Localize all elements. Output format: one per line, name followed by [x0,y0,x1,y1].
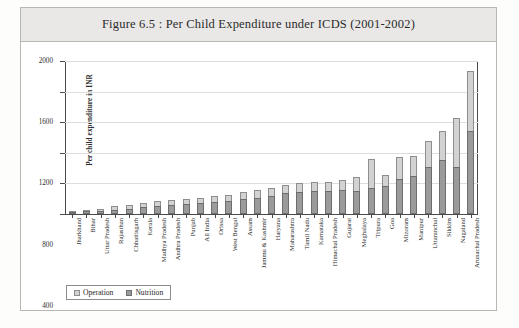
bar-stack[interactable] [368,159,375,214]
bar-stack[interactable] [154,201,161,214]
y-axis-tick-label: 400 [42,302,53,310]
legend-item-operation[interactable]: Operation [74,288,113,297]
bar-stack[interactable] [126,205,133,214]
bar-segment-nutrition [396,179,403,214]
bar-stack[interactable] [140,203,147,214]
bar-stack[interactable] [240,192,247,214]
bar-stack[interactable] [296,183,303,214]
x-axis-label: West Bengal [231,218,238,251]
bar-segment-nutrition [154,206,161,214]
bar-stack[interactable] [325,182,332,215]
y-axis-tick-label: 2000 [39,57,53,65]
bar-stack[interactable] [311,182,318,214]
x-axis-label: Tripura [374,218,381,238]
x-axis-label: Andhra Pradesh [174,218,181,260]
bar-segment-nutrition [353,191,360,214]
x-axis-label: Arunachal Pradesh [473,218,480,268]
bar-segment-operation [353,177,360,191]
bar-segment-nutrition [83,211,90,214]
x-axis-label: Gujarat [345,218,352,238]
bar-stack[interactable] [69,211,76,214]
bar-segment-operation [425,141,432,167]
bar-segment-operation [368,159,375,188]
x-axis-label: All India [203,218,210,242]
bar-stack[interactable] [453,118,460,214]
y-axis-tick-label: 1600 [39,118,53,126]
x-axis-label: Mizoram [402,218,409,242]
bar-segment-nutrition [126,209,133,214]
bar-segment-nutrition [311,191,318,214]
bar-segment-operation [382,175,389,186]
bar-segment-operation [325,182,332,192]
x-axis-label: Chhattisgarh [132,218,139,252]
y-axis-tick: 0 [60,214,65,215]
bar-segment-nutrition [140,207,147,214]
bar-stack[interactable] [97,209,104,214]
bar-stack[interactable] [425,141,432,214]
bar-segment-nutrition [240,199,247,214]
bar-segment-nutrition [168,205,175,214]
bar-stack[interactable] [183,199,190,214]
x-axis-label: Jharkhand [75,218,82,245]
x-axis-label: Rajasthan [117,218,124,244]
bar-segment-operation [453,118,460,167]
bar-segment-nutrition [425,167,432,214]
bar-segment-nutrition [183,204,190,214]
bar-stack[interactable] [382,175,389,214]
x-axis-label: Jammu & Kashmir [260,218,267,268]
figure-page: Figure 6.5 : Per Child Expenditure under… [0,0,519,328]
bar-segment-operation [467,71,474,131]
bar-stack[interactable] [353,177,360,214]
x-axis-label: Orissa [217,218,224,235]
bar-stack[interactable] [225,195,232,214]
legend-item-nutrition[interactable]: Nutrition [126,288,163,297]
bar-stack[interactable] [339,180,346,214]
legend-swatch-icon [74,290,80,296]
bar-stack[interactable] [254,190,261,214]
bar-stack[interactable] [197,198,204,214]
bar-segment-nutrition [410,176,417,214]
bar-segment-operation [296,183,303,192]
bar-segment-nutrition [197,203,204,214]
plot-area: 0400800120016002000 [65,61,478,215]
y-axis-tick-label: 1200 [39,179,53,187]
bar-segment-nutrition [467,131,474,214]
bar-stack[interactable] [410,156,417,214]
bar-segment-operation [254,190,261,197]
figure-title-band: Figure 6.5 : Per Child Expenditure under… [21,8,496,42]
chart-canvas: Per child expenditure in INR 04008001200… [21,42,496,310]
bar-stack[interactable] [282,185,289,214]
x-axis-label: Kerala [146,218,153,236]
chart-legend: Operation Nutrition [66,285,171,300]
x-axis-label: Assam [246,218,253,236]
x-axis-label: Punjab [189,218,196,236]
bar-segment-nutrition [268,196,275,214]
bar-segment-operation [339,180,346,190]
bar-stack[interactable] [396,157,403,214]
bar-stack[interactable] [83,210,90,214]
bar-stack[interactable] [211,196,218,214]
bar-segment-nutrition [225,201,232,214]
bar-segment-nutrition [296,192,303,214]
legend-label-nutrition: Nutrition [135,288,163,297]
bar-stack[interactable] [467,71,474,214]
bar-series-group [65,61,478,214]
bar-stack[interactable] [111,206,118,214]
x-axis-label: Sikkim [445,218,452,237]
bar-segment-nutrition [453,167,460,214]
y-axis-tick-label: 800 [42,241,53,249]
legend-label-operation: Operation [83,288,113,297]
bar-segment-nutrition [69,212,76,214]
bar-segment-nutrition [282,193,289,214]
bar-segment-nutrition [339,190,346,214]
bar-stack[interactable] [439,131,446,214]
x-axis-label: Meghalaya [360,218,367,247]
bar-segment-nutrition [439,160,446,214]
bar-segment-operation [396,157,403,179]
x-axis-label: Uttar Pradesh [103,218,110,254]
page-title: Figure 6.5 : Per Child Expenditure under… [102,17,415,32]
bar-stack[interactable] [168,200,175,214]
bar-stack[interactable] [268,188,275,214]
bar-segment-operation [268,188,275,196]
bar-segment-nutrition [325,191,332,214]
